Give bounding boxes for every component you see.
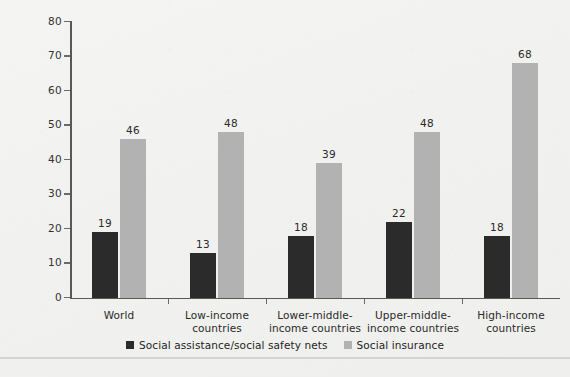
bar-value-label: 68: [504, 48, 546, 60]
x-axis-tick: [462, 299, 463, 304]
y-axis-tick-label: 20: [0, 222, 62, 234]
y-axis-tick-label: 60: [0, 84, 62, 96]
legend-swatch-icon: [126, 341, 134, 349]
y-axis-tick-label: 10: [0, 256, 62, 268]
y-axis-tick-label: 40: [0, 153, 62, 165]
y-axis-tick-label: 80: [0, 15, 62, 27]
bar: [218, 132, 244, 298]
bar: [414, 132, 440, 298]
x-axis-tick: [364, 299, 365, 304]
bar-value-label: 48: [406, 117, 448, 129]
x-axis-tick: [168, 299, 169, 304]
y-axis-tick-label: 50: [0, 118, 62, 130]
legend-item: Social assistance/social safety nets: [126, 339, 328, 351]
legend-item: Social insurance: [344, 339, 444, 351]
legend-label: Social insurance: [357, 339, 444, 351]
bar: [288, 236, 314, 298]
bar-chart-figure: Percent 01020304050607080 19461348183922…: [0, 0, 570, 377]
category-label-line: countries: [450, 322, 570, 335]
bar: [190, 253, 216, 298]
chart-legend: Social assistance/social safety netsSoci…: [0, 339, 570, 351]
bar: [316, 163, 342, 298]
bar: [386, 222, 412, 298]
y-axis-tick-label: 0: [0, 291, 62, 303]
x-axis-category-label: High-incomecountries: [450, 309, 570, 334]
bar-value-label: 46: [112, 124, 154, 136]
bar-value-label: 48: [210, 117, 252, 129]
legend-swatch-icon: [344, 341, 352, 349]
bar: [92, 232, 118, 298]
y-axis-tick-label: 30: [0, 187, 62, 199]
bar: [512, 63, 538, 298]
legend-label: Social assistance/social safety nets: [139, 339, 328, 351]
x-axis-tick: [266, 299, 267, 304]
figure-bottom-rule: [0, 357, 570, 359]
plot-area: 19461348183922481868: [70, 22, 560, 298]
category-label-line: High-income: [450, 309, 570, 322]
bar: [484, 236, 510, 298]
bar: [120, 139, 146, 298]
bar-value-label: 39: [308, 148, 350, 160]
y-axis-tick-label: 70: [0, 49, 62, 61]
